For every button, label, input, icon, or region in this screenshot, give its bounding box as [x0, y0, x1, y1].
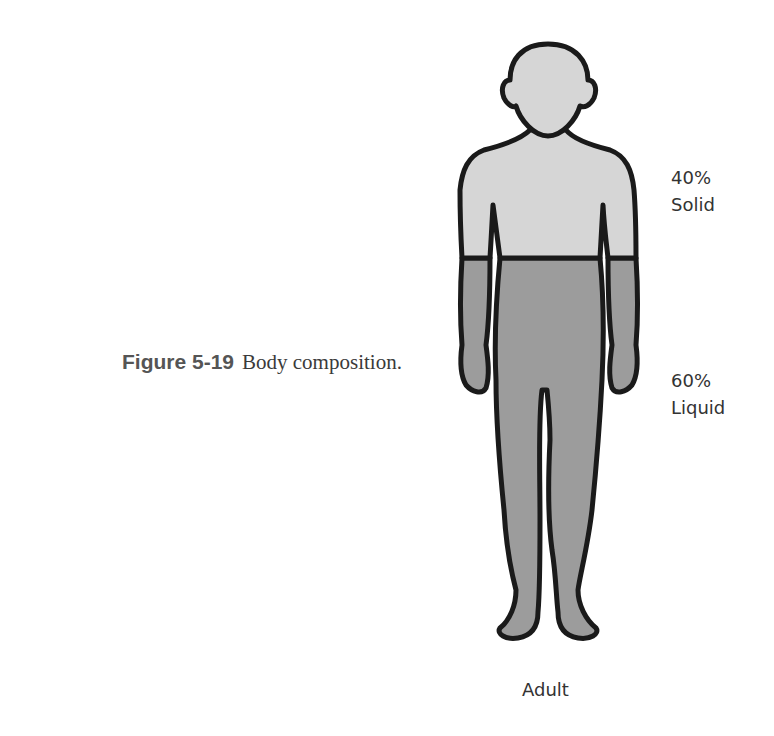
right-forearm [608, 258, 638, 392]
liquid-label: 60% Liquid [671, 367, 725, 421]
head [502, 44, 595, 136]
subject-label: Adult [522, 676, 569, 703]
liquid-percent: 60% [671, 367, 725, 394]
left-forearm [461, 258, 491, 392]
solid-region [460, 44, 636, 258]
figure-number: Figure 5-19 [122, 350, 234, 373]
body-figure [440, 30, 660, 670]
liquid-text: Liquid [671, 394, 725, 421]
solid-text: Solid [671, 191, 715, 218]
figure-caption-text: Body composition. [242, 350, 402, 374]
solid-percent: 40% [671, 164, 715, 191]
upper-torso [460, 130, 636, 258]
liquid-region [461, 258, 638, 638]
solid-label: 40% Solid [671, 164, 715, 218]
lower-body [495, 258, 603, 638]
figure-caption: Figure 5-19Body composition. [122, 350, 402, 375]
